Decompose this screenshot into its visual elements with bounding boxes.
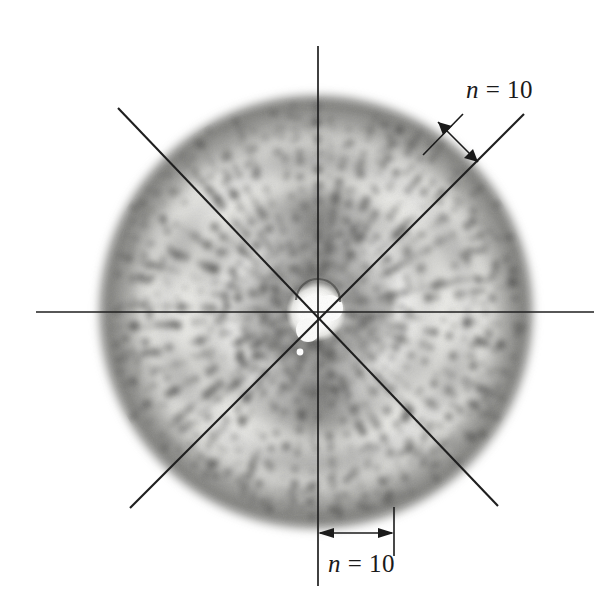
scale-label-bottom: n = 10 [328,550,395,578]
scale-label-bottom-value: 10 [369,550,395,577]
scale-label-upper-right: n = 10 [466,76,533,104]
figure-root: n = 10 n = 10 [0,0,612,608]
scale-label-bottom-variable: n [328,550,341,577]
scale-label-upper-right-value: 10 [507,76,533,103]
scale-arrow-bottom [318,528,394,538]
scale-label-upper-right-equals: = [479,76,507,103]
scale-label-bottom-equals: = [341,550,369,577]
scale-label-upper-right-variable: n [466,76,479,103]
